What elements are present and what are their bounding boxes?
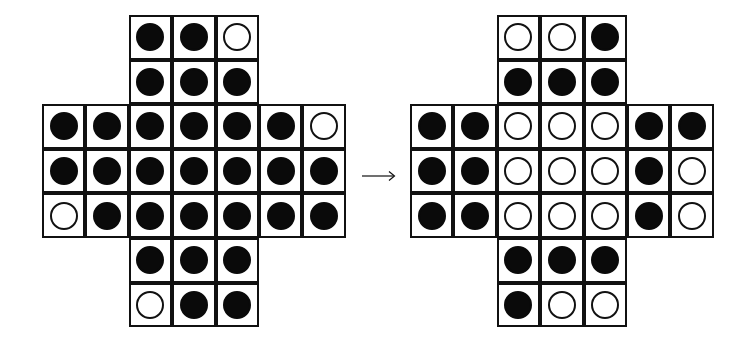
filled-peg-icon	[591, 246, 619, 274]
board-after	[410, 15, 714, 327]
filled-peg-icon	[678, 112, 706, 140]
filled-peg-icon	[504, 246, 532, 274]
board-cell	[216, 104, 259, 149]
board-cell	[497, 60, 540, 105]
filled-peg-icon	[180, 23, 208, 51]
filled-peg-icon	[93, 202, 121, 230]
filled-peg-icon	[310, 202, 338, 230]
filled-peg-icon	[461, 202, 489, 230]
board-before	[42, 15, 346, 327]
board-cell	[42, 149, 85, 194]
board-cell	[302, 104, 345, 149]
board-cell	[172, 238, 215, 283]
empty-hole-icon	[591, 291, 619, 319]
empty-hole-icon	[50, 202, 78, 230]
empty-hole-icon	[504, 112, 532, 140]
board-cell	[584, 15, 627, 60]
board-cell	[540, 104, 583, 149]
board-cell	[216, 60, 259, 105]
empty-hole-icon	[310, 112, 338, 140]
filled-peg-icon	[504, 68, 532, 96]
board-cell	[497, 193, 540, 238]
filled-peg-icon	[180, 202, 208, 230]
filled-peg-icon	[223, 246, 251, 274]
board-cell	[129, 283, 172, 328]
board-cell	[129, 149, 172, 194]
empty-hole-icon	[591, 157, 619, 185]
filled-peg-icon	[635, 202, 663, 230]
board-cell	[497, 283, 540, 328]
board-cell	[497, 149, 540, 194]
board-cell	[129, 238, 172, 283]
filled-peg-icon	[310, 157, 338, 185]
board-cell	[670, 149, 713, 194]
filled-peg-icon	[504, 291, 532, 319]
board-cell	[453, 149, 496, 194]
empty-hole-icon	[548, 157, 576, 185]
filled-peg-icon	[635, 157, 663, 185]
filled-peg-icon	[93, 157, 121, 185]
board-cell	[172, 283, 215, 328]
filled-peg-icon	[223, 112, 251, 140]
filled-peg-icon	[180, 68, 208, 96]
filled-peg-icon	[136, 68, 164, 96]
board-cell	[540, 60, 583, 105]
board-cell	[216, 238, 259, 283]
board-cell	[670, 193, 713, 238]
filled-peg-icon	[180, 157, 208, 185]
empty-hole-icon	[678, 157, 706, 185]
filled-peg-icon	[267, 112, 295, 140]
board-cell	[172, 60, 215, 105]
filled-peg-icon	[267, 157, 295, 185]
board-cell	[584, 60, 627, 105]
board-cell	[216, 283, 259, 328]
board-cell	[85, 149, 128, 194]
board-cell	[129, 193, 172, 238]
filled-peg-icon	[635, 112, 663, 140]
filled-peg-icon	[548, 246, 576, 274]
board-cell	[42, 104, 85, 149]
board-cell	[172, 149, 215, 194]
board-cell	[584, 104, 627, 149]
board-cell	[172, 193, 215, 238]
empty-hole-icon	[136, 291, 164, 319]
filled-peg-icon	[50, 157, 78, 185]
filled-peg-icon	[136, 202, 164, 230]
filled-peg-icon	[136, 157, 164, 185]
board-cell	[302, 193, 345, 238]
board-cell	[85, 193, 128, 238]
board-cell	[453, 104, 496, 149]
board-cell	[129, 15, 172, 60]
empty-hole-icon	[548, 112, 576, 140]
board-cell	[259, 104, 302, 149]
board-cell	[584, 149, 627, 194]
empty-hole-icon	[223, 23, 251, 51]
board-cell	[216, 15, 259, 60]
board-cell	[85, 104, 128, 149]
filled-peg-icon	[93, 112, 121, 140]
board-cell	[540, 15, 583, 60]
empty-hole-icon	[504, 202, 532, 230]
filled-peg-icon	[591, 68, 619, 96]
empty-hole-icon	[591, 202, 619, 230]
filled-peg-icon	[418, 157, 446, 185]
filled-peg-icon	[180, 112, 208, 140]
filled-peg-icon	[267, 202, 295, 230]
board-cell	[259, 149, 302, 194]
filled-peg-icon	[136, 23, 164, 51]
empty-hole-icon	[504, 157, 532, 185]
board-cell	[584, 283, 627, 328]
board-cell	[216, 149, 259, 194]
board-cell	[497, 104, 540, 149]
filled-peg-icon	[223, 157, 251, 185]
board-cell	[540, 238, 583, 283]
board-cell	[670, 104, 713, 149]
empty-hole-icon	[591, 112, 619, 140]
board-cell	[540, 149, 583, 194]
empty-hole-icon	[504, 23, 532, 51]
board-cell	[584, 193, 627, 238]
filled-peg-icon	[50, 112, 78, 140]
empty-hole-icon	[548, 23, 576, 51]
filled-peg-icon	[136, 246, 164, 274]
board-cell	[129, 60, 172, 105]
